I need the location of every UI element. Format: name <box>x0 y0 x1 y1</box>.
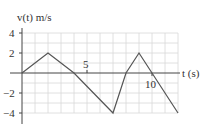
ytick-neg2: −2 <box>3 87 15 99</box>
x-axis-label: t (s) <box>182 67 200 80</box>
ytick-4: 4 <box>9 27 15 39</box>
velocity-chart: v(t) m/s t (s) 4 2 −2 −4 5 10 <box>0 0 203 132</box>
xtick-5: 5 <box>83 58 89 70</box>
xtick-10: 10 <box>145 78 157 90</box>
ytick-2: 2 <box>9 47 15 59</box>
y-axis-label: v(t) m/s <box>17 11 52 24</box>
ytick-neg4: −4 <box>3 107 15 119</box>
